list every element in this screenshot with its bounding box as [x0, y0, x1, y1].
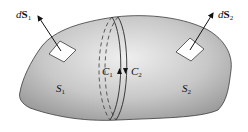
- label-c2: C2: [131, 66, 142, 79]
- label-s1: S1: [56, 83, 65, 96]
- label-s2: S2: [182, 83, 191, 96]
- label-ds2: dS2: [218, 9, 233, 22]
- surface-diagram: dS1 dS2 S1 S2 C1 C2: [0, 0, 248, 132]
- label-c1: C1: [102, 66, 113, 79]
- diagram-svg: [0, 0, 248, 132]
- label-ds1: dS1: [16, 9, 31, 22]
- closed-surface: [19, 16, 231, 121]
